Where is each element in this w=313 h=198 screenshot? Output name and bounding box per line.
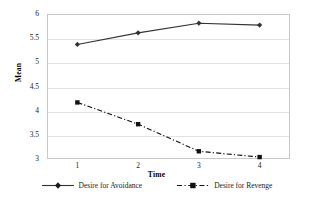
legend-entry-revenge[interactable]: Desire for Revenge — [176, 181, 272, 190]
y-tick-label: 6 — [35, 10, 39, 18]
gridline — [48, 39, 289, 40]
y-tick-label: 3.5 — [30, 131, 39, 139]
x-tick-label: 4 — [258, 161, 262, 170]
y-tick-label: 5.5 — [30, 34, 39, 42]
gridline — [48, 88, 289, 89]
gridline — [48, 63, 289, 64]
legend-key-avoidance-icon — [41, 181, 75, 190]
gridline — [48, 112, 289, 113]
y-tick-label: 5 — [35, 58, 39, 66]
legend-entry-avoidance[interactable]: Desire for Avoidance — [41, 181, 143, 190]
y-tick-label: 4.5 — [30, 83, 39, 91]
plot-area — [47, 14, 290, 159]
x-tick-label: 3 — [197, 161, 201, 170]
x-tick-label: 1 — [76, 161, 80, 170]
legend-key-revenge-icon — [176, 181, 210, 190]
y-tick-label: 4 — [35, 107, 39, 115]
y-tick-label: 3 — [35, 155, 39, 163]
legend-label-avoidance: Desire for Avoidance — [79, 181, 143, 190]
y-axis-tick-labels: 65.554.543.53 — [0, 14, 44, 159]
gridline — [48, 136, 289, 137]
legend-label-revenge: Desire for Revenge — [214, 181, 272, 190]
line-chart-figure: Mean 65.554.543.53 1234 Time Desire for … — [0, 0, 313, 198]
chart-legend: Desire for Avoidance Desire for Revenge — [0, 181, 313, 190]
x-axis-title: Time — [0, 170, 313, 179]
x-tick-label: 2 — [136, 161, 140, 170]
